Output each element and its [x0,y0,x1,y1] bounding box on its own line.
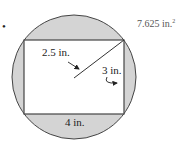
answer-text: 7.625 in.2 [137,18,175,29]
width-label: 4 in. [65,116,85,128]
radius-label: 2.5 in. [42,46,70,58]
diagram-canvas: • 2.5 in. 3 in. 4 in. 7.625 in.2 [0,0,192,148]
problem-bullet: • [2,20,6,32]
height-label: 3 in. [102,64,122,76]
